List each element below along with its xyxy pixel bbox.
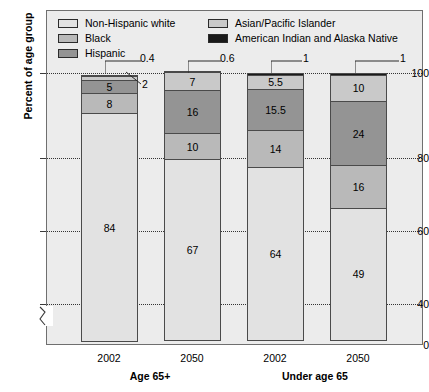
bar-column-0[interactable]: 0.425884: [81, 75, 138, 345]
y-tick-mark-80: [40, 158, 46, 159]
bar-segment-value: 67: [187, 244, 199, 256]
bar-segment-2-hispanic[interactable]: 15.5: [247, 89, 304, 131]
bar-segment-value: 84: [104, 222, 116, 234]
legend-label-american-indian-alaska-native: American Indian and Alaska Native: [235, 33, 398, 44]
bar-segment-3-non-hispanic-white[interactable]: 49: [330, 208, 387, 341]
callout-label-2: 2: [142, 78, 148, 90]
group-label-under-age-65: Under age 65: [245, 370, 385, 382]
bar-segment-value: 8: [107, 98, 113, 110]
y-tick-mark-100: [40, 73, 46, 74]
bar-segment-value: 5.5: [268, 76, 283, 88]
bar-segment-value: 14: [270, 143, 282, 155]
legend-item-asian-pacific-islander: Asian/Pacific Islander: [208, 16, 398, 30]
bar-segment-2-non-hispanic-white[interactable]: 64: [247, 167, 304, 341]
legend-label-black: Black: [85, 33, 111, 44]
bar-segment-2-black[interactable]: 14: [247, 130, 304, 168]
bar-segment-value: 24: [353, 128, 365, 140]
legend-swatch-hispanic: [58, 49, 78, 58]
bar-segment-value: 64: [270, 248, 282, 260]
bar-segment-1-hispanic[interactable]: 16: [164, 90, 221, 134]
bar-segment-3-asian-pacific-islander[interactable]: 10: [330, 75, 387, 102]
callout-label-0-6: 0.6: [220, 52, 235, 64]
legend-label-asian-pacific-islander: Asian/Pacific Islander: [235, 18, 335, 29]
bar-segment-value: 49: [353, 268, 365, 280]
bar-segment-value: 10: [187, 141, 199, 153]
bar-segment-value: 5: [107, 81, 113, 93]
x-tick-label-3: 2050: [318, 352, 398, 364]
bar-segment-0-black[interactable]: 8: [81, 93, 138, 115]
bar-segment-1-black[interactable]: 10: [164, 133, 221, 160]
legend-swatch-asian-pacific-islander: [208, 19, 228, 28]
callout-label-0-4: 0.4: [140, 52, 155, 64]
bar-segment-value: 16: [187, 106, 199, 118]
callout-label-1-b: 1: [400, 52, 406, 64]
y-tick-mark-60: [40, 231, 46, 232]
bar-column-3[interactable]: 110241649: [330, 73, 387, 345]
bar-segment-value: 15.5: [265, 104, 285, 116]
bar-segment-1-asian-pacific-islander[interactable]: 7: [164, 72, 221, 91]
callout-label-1-a: 1: [303, 52, 309, 64]
legend-swatch-american-indian-alaska-native: [208, 34, 228, 43]
bar-segment-1-non-hispanic-white[interactable]: 67: [164, 159, 221, 341]
x-tick-label-0: 2002: [69, 352, 149, 364]
bar-column-2[interactable]: 15.515.51464: [247, 73, 304, 345]
legend-column-left: Non-Hispanic white Black Hispanic: [58, 16, 175, 61]
bar-segment-value: 10: [353, 82, 365, 94]
legend-column-right: Asian/Pacific Islander American Indian a…: [208, 16, 398, 46]
legend-swatch-non-hispanic-white: [58, 19, 78, 28]
bar-segment-2-asian-pacific-islander[interactable]: 5.5: [247, 75, 304, 90]
stacked-bar-chart: Percent of age group 100 80 60 40 0 Non-…: [0, 0, 429, 392]
legend-item-black: Black: [58, 31, 175, 45]
bar-segment-value: 7: [190, 76, 196, 88]
legend-item-american-indian-alaska-native: American Indian and Alaska Native: [208, 31, 398, 45]
group-label-age-65-plus: Age 65+: [80, 370, 220, 382]
legend-item-hispanic: Hispanic: [58, 46, 175, 60]
bar-segment-0-non-hispanic-white[interactable]: 84: [81, 113, 138, 341]
y-axis-title: Percent of age group: [22, 0, 34, 146]
legend-swatch-black: [58, 34, 78, 43]
bar-segment-value: 16: [353, 181, 365, 193]
axis-break-icon: [39, 306, 53, 326]
legend-item-non-hispanic-white: Non-Hispanic white: [58, 16, 175, 30]
bar-column-1[interactable]: 0.67161067: [164, 71, 221, 345]
bar-segment-3-black[interactable]: 16: [330, 165, 387, 209]
bar-segment-0-hispanic[interactable]: 5: [81, 80, 138, 94]
y-tick-label-0: 0: [385, 339, 429, 351]
legend-label-hispanic: Hispanic: [85, 48, 125, 59]
y-tick-mark-40: [40, 304, 46, 305]
legend-label-non-hispanic-white: Non-Hispanic white: [85, 18, 175, 29]
x-tick-label-1: 2050: [152, 352, 232, 364]
x-tick-label-2: 2002: [235, 352, 315, 364]
bar-segment-3-hispanic[interactable]: 24: [330, 101, 387, 166]
